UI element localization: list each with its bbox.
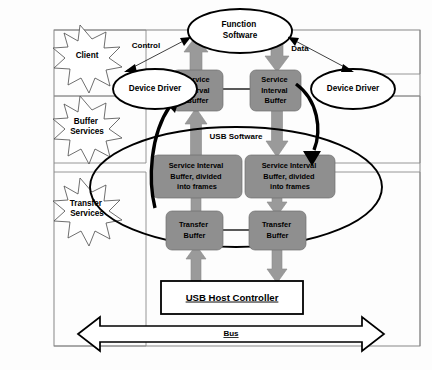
buffer-transfer-left: Transfer Buffer <box>166 211 223 250</box>
data-arrowhead-bottom <box>341 64 354 72</box>
grey-arrow-down-right-mid <box>266 108 288 157</box>
grey-arrow-down-right-bottom <box>267 245 287 283</box>
starburst-buffer-services-label: Buffer Services <box>70 117 104 136</box>
control-arrowhead-bottom <box>124 64 137 72</box>
buffer-transfer-right: Transfer Buffer <box>249 211 306 250</box>
buffer-service-interval-right-label: Service Interval Buffer <box>261 75 289 105</box>
ellipse-device-driver-left-label: Device Driver <box>129 84 182 93</box>
starburst-buffer-services: Buffer Services <box>53 96 122 164</box>
usb-host-controller: USB Host Controller <box>161 281 303 314</box>
data-flow-arrow <box>288 37 354 72</box>
starburst-transfer-services: Transfer Services <box>53 178 122 246</box>
buffer-service-interval-frames-right-label: Service Interval Buffer, divided into fr… <box>262 161 319 191</box>
data-label: Data <box>291 44 309 53</box>
usb-buffer-architecture-diagram: Client Buffer Services Transfer Services <box>0 0 432 370</box>
diagram-canvas: Client Buffer Services Transfer Services <box>0 0 432 370</box>
data-flow-line <box>288 37 352 71</box>
buffer-service-interval-frames-left: Service Interval Buffer, divided into fr… <box>152 155 242 198</box>
ellipse-device-driver-right-label: Device Driver <box>327 84 380 93</box>
ellipse-device-driver-left: Device Driver <box>113 69 197 109</box>
control-label: Control <box>132 41 160 50</box>
buffer-service-interval-frames-left-label: Service Interval Buffer, divided into fr… <box>169 161 226 191</box>
bus-label: Bus <box>223 329 239 338</box>
starburst-client: Client <box>53 25 122 93</box>
bracket-right-transfer <box>330 172 420 346</box>
usb-host-controller-label: USB Host Controller <box>186 292 279 303</box>
buffer-service-interval-frames-right: Service Interval Buffer, divided into fr… <box>245 155 335 198</box>
buffer-service-interval-right: Service Interval Buffer <box>250 70 301 111</box>
grey-arrow-up-left-mid <box>185 108 207 157</box>
ellipse-device-driver-right: Device Driver <box>311 69 395 109</box>
usb-software-label: USB Software <box>210 132 263 141</box>
grey-arrow-up-left-bottom <box>186 245 206 283</box>
ellipse-function-software: Function Software <box>188 9 292 53</box>
starburst-client-label: Client <box>76 51 99 60</box>
